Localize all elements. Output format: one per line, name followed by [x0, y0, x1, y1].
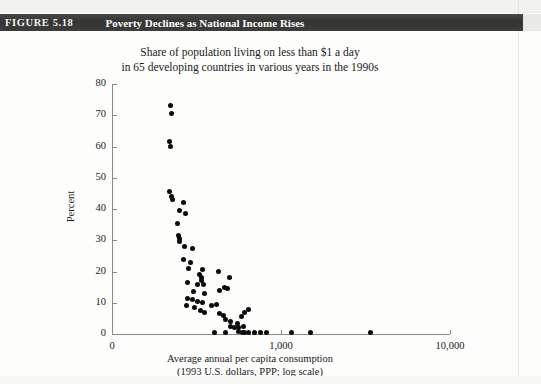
- y-axis-title: Percent: [65, 177, 76, 237]
- data-point: [181, 200, 186, 205]
- data-point: [186, 266, 191, 271]
- figure-number-label: FIGURE 5.18: [0, 17, 73, 28]
- y-tick: [113, 272, 117, 273]
- y-tick-label: 0: [80, 327, 106, 338]
- y-tick-label: 30: [80, 233, 106, 244]
- data-point: [216, 269, 221, 274]
- data-point: [225, 286, 230, 291]
- x-tick-label: 1,000: [251, 340, 311, 351]
- y-tick: [113, 84, 117, 85]
- data-point: [223, 317, 228, 322]
- data-point: [241, 324, 246, 329]
- data-point: [214, 302, 219, 307]
- scatter-plot: 01020304050607080Percent01,00010,000: [0, 0, 541, 384]
- y-tick: [113, 240, 117, 241]
- y-tick: [113, 178, 117, 179]
- data-point: [246, 307, 251, 312]
- data-point: [170, 197, 175, 202]
- y-tick-label: 20: [80, 265, 106, 276]
- data-point: [191, 289, 196, 294]
- data-point: [201, 282, 206, 287]
- y-tick-label: 40: [80, 202, 106, 213]
- y-tick: [113, 303, 117, 304]
- x-tick-label: 10,000: [420, 340, 480, 351]
- x-axis-caption: Average annual per capita consumption (1…: [0, 352, 500, 378]
- y-tick-label: 80: [80, 77, 106, 88]
- data-point: [185, 280, 190, 285]
- y-tick-label: 60: [80, 140, 106, 151]
- y-tick-label: 10: [80, 296, 106, 307]
- figure-title: Poverty Declines as National Income Rise…: [105, 17, 304, 29]
- data-point: [169, 111, 174, 116]
- x-tick: [281, 330, 282, 334]
- y-tick: [113, 209, 117, 210]
- data-point: [289, 330, 294, 335]
- x-axis-caption-line-2: (1993 U.S. dollars, PPP; log scale): [0, 365, 500, 378]
- data-point: [182, 244, 187, 249]
- data-point: [177, 239, 182, 244]
- data-point: [202, 310, 207, 315]
- y-tick: [113, 147, 117, 148]
- data-point: [195, 282, 200, 287]
- data-point: [168, 103, 173, 108]
- data-point: [183, 211, 188, 216]
- x-axis-line: [112, 334, 450, 335]
- y-tick: [113, 115, 117, 116]
- data-point: [239, 314, 244, 319]
- x-tick-label: 0: [82, 340, 142, 351]
- data-point: [264, 330, 269, 335]
- data-point: [192, 305, 197, 310]
- data-point: [177, 208, 182, 213]
- data-point: [200, 300, 205, 305]
- data-point: [181, 257, 186, 262]
- data-point: [168, 144, 173, 149]
- y-tick-label: 50: [80, 171, 106, 182]
- data-point: [223, 330, 228, 335]
- data-point: [184, 303, 189, 308]
- data-point: [188, 260, 193, 265]
- figure-bar-tail: [523, 14, 541, 31]
- data-point: [202, 291, 207, 296]
- figure-page: FIGURE 5.18 Poverty Declines as National…: [0, 0, 541, 384]
- figure-header-bar: FIGURE 5.18 Poverty Declines as National…: [0, 14, 523, 31]
- data-point: [190, 246, 195, 251]
- data-point: [175, 221, 180, 226]
- x-tick: [450, 330, 451, 334]
- y-tick-label: 70: [80, 108, 106, 119]
- data-point: [212, 330, 217, 335]
- page-right-edge: [518, 0, 519, 384]
- data-point: [246, 330, 251, 335]
- data-point: [217, 288, 222, 293]
- data-point: [185, 296, 190, 301]
- data-point: [227, 275, 232, 280]
- x-axis-caption-line-1: Average annual per capita consumption: [0, 352, 500, 365]
